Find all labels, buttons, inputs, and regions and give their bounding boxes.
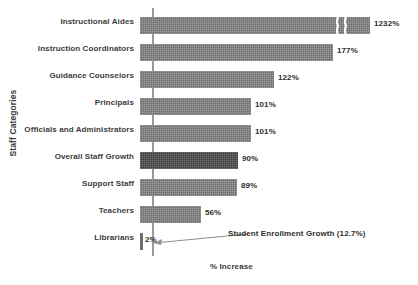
bar-row-officials-and-administrators: 101% bbox=[140, 120, 418, 147]
bar-value-instructional-aides: 1232% bbox=[374, 19, 399, 28]
bar-instruction-coordinators[interactable] bbox=[140, 44, 333, 61]
bar-value-principals: 101% bbox=[255, 100, 276, 109]
bar-row-instructional-aides: 1232% bbox=[140, 12, 418, 39]
bar-row-guidance-counselors: 122% bbox=[140, 66, 418, 93]
bar-value-officials-and-administrators: 101% bbox=[255, 127, 276, 136]
bar-officials-and-administrators[interactable] bbox=[140, 125, 251, 142]
bar-row-teachers: 56% bbox=[140, 201, 418, 228]
bar-row-instruction-coordinators: 177% bbox=[140, 39, 418, 66]
x-axis-title: % Increase bbox=[210, 262, 253, 271]
bar-row-overall-staff-growth: 90% bbox=[140, 147, 418, 174]
bar-value-overall-staff-growth: 90% bbox=[242, 154, 258, 163]
bar-value-support-staff: 89% bbox=[241, 181, 257, 190]
y-tick-label-guidance-counselors: Guidance Counselors bbox=[0, 71, 134, 80]
bar-value-teachers: 56% bbox=[205, 208, 221, 217]
bar-support-staff[interactable] bbox=[140, 179, 237, 196]
y-tick-label-instruction-coordinators: Instruction Coordinators bbox=[0, 44, 134, 53]
y-tick-label-overall-staff-growth: Overall Staff Growth bbox=[0, 152, 134, 161]
y-tick-label-officials-and-administrators: Officials and Administrators bbox=[0, 125, 134, 134]
y-tick-label-teachers: Teachers bbox=[0, 206, 134, 215]
bar-overall-staff-growth[interactable] bbox=[140, 152, 238, 169]
bar-value-guidance-counselors: 122% bbox=[278, 73, 299, 82]
y-tick-label-instructional-aides: Instructional Aides bbox=[0, 17, 134, 26]
bar-chart: Staff Categories % Increase Instructiona… bbox=[0, 0, 418, 285]
bar-value-librarians: 2% bbox=[145, 235, 157, 244]
annotation-student-enrollment-growth: Student Enrollment Growth (12.7%) bbox=[228, 229, 366, 238]
bar-instructional-aides[interactable] bbox=[140, 17, 370, 34]
y-tick-label-librarians: Librarians bbox=[0, 233, 134, 242]
bar-row-principals: 101% bbox=[140, 93, 418, 120]
bar-principals[interactable] bbox=[140, 98, 251, 115]
plot-area: 1232% 177% 122% 101% 101% 90% bbox=[140, 8, 418, 256]
bar-librarians[interactable] bbox=[140, 233, 143, 250]
bar-teachers[interactable] bbox=[140, 206, 201, 223]
y-tick-label-support-staff: Support Staff bbox=[0, 179, 134, 188]
bar-row-support-staff: 89% bbox=[140, 174, 418, 201]
bar-guidance-counselors[interactable] bbox=[140, 71, 274, 88]
bar-value-instruction-coordinators: 177% bbox=[337, 46, 358, 55]
y-tick-label-principals: Principals bbox=[0, 98, 134, 107]
